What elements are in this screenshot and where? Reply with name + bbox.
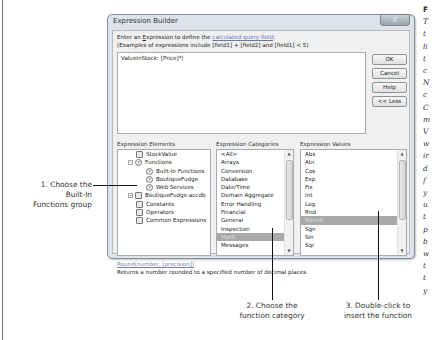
callout-step-1: 1. Choose the Built-In Functions group (14, 180, 92, 210)
category-item[interactable]: Error Handling (217, 200, 293, 208)
leader-line-step-3 (378, 211, 379, 300)
category-item[interactable]: Financial (217, 208, 293, 216)
expression-values-label: Expression Values (300, 141, 350, 147)
category-item-selected[interactable]: Math (217, 233, 293, 241)
expression-elements-tree[interactable]: StockValue −fFunctions fBuilt-In Functio… (117, 149, 211, 256)
tree-item-functions[interactable]: −fFunctions (118, 158, 210, 166)
value-item[interactable]: Atn (301, 158, 406, 166)
category-item[interactable]: Arrays (217, 158, 293, 166)
expression-categories-label: Expression Categories (216, 141, 278, 147)
expression-elements-label: Expression Elements (117, 141, 175, 147)
close-button[interactable]: X (380, 14, 410, 26)
category-item[interactable]: Domain Aggregate (217, 191, 293, 199)
page-margin-rule (2, 0, 3, 340)
category-item[interactable]: Messages (217, 241, 293, 249)
common-expressions-icon (136, 217, 143, 224)
sidebar-note: F T t li t c N c C m V w ir d f y u t p … (423, 4, 441, 297)
value-item[interactable]: Rnd (301, 208, 406, 216)
value-item[interactable]: Sqr (301, 241, 406, 249)
category-item[interactable]: General (217, 216, 293, 224)
less-button[interactable]: << Less (372, 96, 407, 107)
category-item[interactable]: Conversion (217, 167, 293, 175)
tree-item-operators[interactable]: Operators (118, 208, 210, 216)
categories-scrollbar[interactable]: ▲ ▼ (284, 150, 293, 255)
value-item[interactable]: Int (301, 191, 406, 199)
function-icon: f (146, 176, 153, 183)
tree-item-boutiquefudge[interactable]: fBoutiqueFudge (118, 175, 210, 183)
tree-item-stockvalue[interactable]: StockValue (118, 150, 210, 158)
category-item[interactable]: Inspection (217, 225, 293, 233)
constants-icon (136, 201, 143, 208)
help-button[interactable]: Help (372, 82, 407, 93)
expression-input[interactable]: ValueInStock: [Price]*| (117, 52, 366, 134)
title-bar: Expression Builder X (108, 15, 414, 30)
function-description: Returns a number rounded to a specified … (117, 269, 308, 275)
leader-line-step-1 (93, 185, 137, 186)
expression-values-list[interactable]: Abs Atn Cos Exp Fix Int Log Rnd Round Sg… (300, 149, 407, 256)
category-item[interactable]: <All> (217, 150, 293, 158)
scroll-down-icon[interactable]: ▼ (398, 247, 406, 255)
dialog-title: Expression Builder (113, 17, 178, 25)
value-item[interactable]: Sin (301, 233, 406, 241)
tree-item-boutiquefudge-accdb[interactable]: +BoutiqueFudge.accdb (118, 191, 210, 199)
category-item[interactable]: Date/Time (217, 183, 293, 191)
scroll-up-icon[interactable]: ▲ (285, 150, 293, 158)
callout-step-2: 2. Choose the function category (222, 301, 322, 321)
tree-item-built-in-functions[interactable]: fBuilt-In Functions (118, 167, 210, 175)
scroll-up-icon[interactable]: ▲ (398, 150, 406, 158)
ok-button[interactable]: OK (372, 54, 407, 65)
instruction-text: Enter an Expression to define the calcul… (117, 34, 275, 40)
value-item[interactable]: Log (301, 200, 406, 208)
value-item-selected[interactable]: Round (301, 216, 406, 224)
expression-builder-dialog: Expression Builder X Enter an Expression… (107, 14, 415, 259)
cancel-button[interactable]: Cancel (372, 68, 407, 79)
expand-icon[interactable]: + (128, 193, 133, 198)
scroll-thumb[interactable] (399, 160, 406, 220)
value-item[interactable]: Cos (301, 167, 406, 175)
tree-item-common-expressions[interactable]: Common Expressions (118, 216, 210, 224)
dialog-client-area: Enter an Expression to define the calcul… (112, 30, 410, 254)
operators-icon (136, 209, 143, 216)
category-item[interactable]: Database (217, 175, 293, 183)
leader-line-step-2 (272, 228, 273, 300)
scroll-thumb[interactable] (286, 160, 293, 220)
function-syntax-link[interactable]: Round(number, [precision]) (117, 261, 194, 267)
calculated-query-field-link[interactable]: calculated query field (212, 34, 273, 40)
close-icon: X (393, 16, 398, 24)
value-item[interactable]: Exp (301, 175, 406, 183)
tree-item-constants[interactable]: Constants (118, 200, 210, 208)
function-icon: f (146, 184, 153, 191)
collapse-icon[interactable]: − (128, 160, 133, 165)
callout-step-3: 3. Double-click to insert the function (328, 301, 428, 321)
function-icon: f (135, 159, 142, 166)
value-item[interactable]: Abs (301, 150, 406, 158)
value-item[interactable]: Fix (301, 183, 406, 191)
values-scrollbar[interactable]: ▲ ▼ (397, 150, 406, 255)
database-icon (135, 192, 142, 199)
examples-text: (Examples of expressions include [field1… (117, 42, 309, 48)
expression-categories-list[interactable]: <All> Arrays Conversion Database Date/Ti… (216, 149, 294, 256)
function-icon: f (146, 168, 153, 175)
scroll-down-icon[interactable]: ▼ (285, 247, 293, 255)
value-item[interactable]: Sgn (301, 225, 406, 233)
query-icon (136, 151, 143, 158)
